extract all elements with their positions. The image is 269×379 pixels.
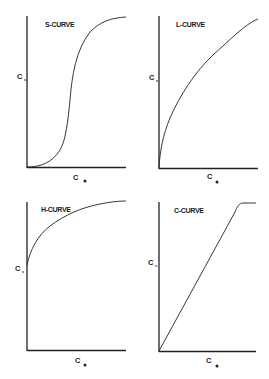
- h-curve-panel: H-CURVE C s C: [0, 190, 135, 379]
- y-axis-label: C: [17, 72, 23, 81]
- chart-title: L-CURVE: [176, 21, 206, 28]
- s-curve-line: [27, 17, 126, 167]
- x-axis-label: C: [73, 173, 79, 182]
- x-axis-subscript-dot: [216, 181, 219, 184]
- y-axis-label: C: [148, 258, 154, 267]
- y-axis-subscript: s: [155, 263, 158, 268]
- x-axis-subscript-dot: [216, 365, 219, 368]
- x-axis-label: C: [206, 356, 212, 365]
- chart-title: C-CURVE: [174, 207, 204, 214]
- chart-title: H-CURVE: [41, 206, 71, 213]
- x-axis-subscript-dot: [84, 364, 87, 367]
- h-curve-chart: H-CURVE C s C: [0, 190, 135, 379]
- y-axis-subscript: s: [22, 269, 25, 274]
- l-curve-chart: L-CURVE C s C: [135, 0, 269, 190]
- s-curve-panel: S-CURVE C s C: [0, 0, 135, 190]
- y-axis-label: C: [149, 73, 155, 82]
- c-curve-chart: C-CURVE C s C: [135, 190, 269, 379]
- x-axis-label: C: [75, 356, 81, 365]
- chart-title: S-CURVE: [45, 21, 75, 28]
- c-curve-line: [159, 203, 256, 351]
- y-axis-label: C: [15, 264, 21, 273]
- x-axis-label: C: [207, 172, 213, 181]
- x-axis-subscript-dot: [84, 180, 87, 183]
- c-curve-panel: C-CURVE C s C: [135, 190, 269, 379]
- l-curve-line: [159, 19, 258, 168]
- l-curve-panel: L-CURVE C s C: [135, 0, 269, 190]
- s-curve-chart: S-CURVE C s C: [0, 0, 135, 190]
